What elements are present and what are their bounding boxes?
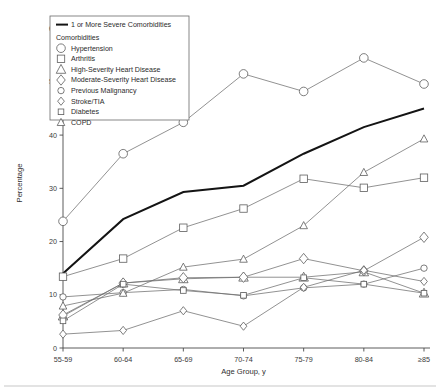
y-axis-title: Percentage	[15, 164, 24, 203]
legend-entry-diabetes: Diabetes	[71, 108, 99, 116]
data-point-marker	[58, 87, 64, 93]
series-group	[59, 232, 429, 320]
data-point-marker	[360, 54, 369, 63]
y-tick-label: 20	[49, 237, 57, 246]
data-point-marker	[300, 175, 307, 182]
chart-legend: 1 or More Severe ComorbiditiesComorbidit…	[50, 16, 189, 127]
y-tick-label: 40	[49, 131, 57, 140]
data-point-marker	[180, 307, 187, 315]
data-point-marker	[420, 80, 429, 89]
data-point-marker	[240, 255, 248, 262]
y-tick-label: 0	[53, 344, 57, 353]
legend-entry-arthritis: Arthritis	[71, 55, 95, 63]
data-point-marker	[60, 318, 66, 324]
data-point-marker	[239, 70, 248, 79]
data-point-marker	[59, 217, 68, 226]
data-point-marker	[181, 288, 187, 294]
data-point-marker	[299, 87, 308, 96]
data-point-marker	[58, 109, 64, 115]
data-point-marker	[360, 168, 368, 175]
data-point-marker	[57, 55, 64, 62]
data-point-marker	[57, 44, 66, 53]
y-tick-label: 10	[49, 290, 57, 299]
data-point-marker	[180, 224, 187, 231]
y-tick-label: 30	[49, 184, 57, 193]
data-point-marker	[421, 265, 427, 271]
x-tick-label: 55-59	[54, 355, 72, 364]
data-point-marker	[361, 281, 367, 287]
data-point-marker	[119, 149, 128, 158]
data-point-marker	[120, 281, 126, 287]
legend-entry-primary: 1 or More Severe Comorbidities	[71, 21, 172, 29]
data-point-marker	[240, 322, 247, 330]
legend-entry-previous-malignancy: Previous Malignancy	[71, 87, 137, 95]
chart-container: 010203040506055-5960-6465-6970-7475-7980…	[0, 0, 440, 392]
legend-entry-copd: COPD	[71, 119, 92, 127]
x-tick-label: 80-84	[355, 355, 373, 364]
data-point-marker	[120, 326, 127, 334]
data-point-marker	[59, 273, 66, 280]
x-tick-label: 70-74	[234, 355, 252, 364]
legend-entry-moderate-severity-heart-disease: Moderate-Severity Heart Disease	[71, 76, 176, 84]
data-point-marker	[60, 294, 66, 300]
data-point-marker	[420, 135, 428, 142]
data-point-marker	[60, 330, 67, 338]
series-line	[63, 108, 424, 273]
legend-entry-hypertension: Hypertension	[71, 45, 113, 53]
legend-entry-stroke-tia: Stroke/TIA	[71, 98, 105, 106]
x-axis-title: Age Group, y	[221, 367, 266, 376]
series-group	[63, 108, 424, 273]
legend-heading: Comorbidities	[56, 34, 100, 42]
data-point-marker	[240, 205, 247, 212]
data-point-marker	[119, 255, 126, 262]
x-tick-label: 75-79	[294, 355, 312, 364]
line-chart: 010203040506055-5960-6465-6970-7475-7980…	[0, 0, 440, 392]
legend-entry-high-severity-heart-disease: High-Severity Heart Disease	[71, 66, 161, 74]
data-point-marker	[300, 222, 308, 229]
data-point-marker	[360, 184, 367, 191]
x-tick-label: 65-69	[174, 355, 192, 364]
x-tick-label: ≥85	[418, 355, 430, 364]
data-point-marker	[299, 253, 308, 263]
data-point-marker	[421, 277, 428, 285]
data-point-marker	[301, 275, 307, 281]
data-point-marker	[420, 174, 427, 181]
data-point-marker	[421, 290, 427, 296]
data-point-marker	[420, 232, 429, 242]
x-tick-label: 60-64	[114, 355, 132, 364]
data-point-marker	[241, 293, 247, 299]
